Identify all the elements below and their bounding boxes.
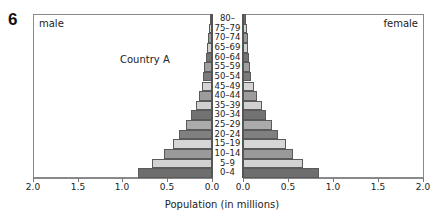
male-bar xyxy=(179,130,212,140)
age-group-label: 30–34 xyxy=(212,110,243,120)
age-group-label: 10–14 xyxy=(212,149,243,159)
age-group-label: 55–59 xyxy=(212,62,243,72)
x-tick-label: 1.5 xyxy=(71,182,85,192)
male-bar xyxy=(152,159,212,169)
age-group-label: 50–54 xyxy=(212,72,243,82)
age-group-labels: 0–45–910–1415–1920–2425–2930–3435–3940–4… xyxy=(212,14,243,178)
male-bar xyxy=(196,101,212,111)
female-bar xyxy=(243,139,286,149)
age-group-label: 0–4 xyxy=(212,168,243,178)
female-bar xyxy=(243,130,278,140)
female-bar xyxy=(243,62,250,72)
female-bar xyxy=(243,91,257,101)
age-group-label: 70–74 xyxy=(212,33,243,43)
age-group-label: 65–69 xyxy=(212,43,243,53)
male-bar xyxy=(138,168,212,178)
x-tick-label: 2.0 xyxy=(416,182,430,192)
female-bar xyxy=(243,82,254,92)
male-bars xyxy=(33,14,212,178)
female-bar xyxy=(243,168,319,178)
x-tick-label: 0.5 xyxy=(281,182,295,192)
x-tick-label: 1.5 xyxy=(371,182,385,192)
female-bar xyxy=(243,120,272,130)
age-group-label: 75–79 xyxy=(212,24,243,34)
female-bar xyxy=(243,72,251,82)
female-bars xyxy=(243,14,423,178)
female-bar xyxy=(243,101,262,111)
age-group-label: 40–44 xyxy=(212,91,243,101)
age-group-label: 35–39 xyxy=(212,101,243,111)
question-number: 6 xyxy=(8,10,17,30)
age-group-label: 20–24 xyxy=(212,130,243,140)
x-tick-label: 1.0 xyxy=(115,182,129,192)
female-bar xyxy=(243,159,303,169)
female-bar xyxy=(243,149,293,159)
age-group-label: 15–19 xyxy=(212,139,243,149)
x-tick-label: 2.0 xyxy=(26,182,40,192)
female-bar xyxy=(243,110,266,120)
x-axis-label: Population (in millions) xyxy=(0,199,444,210)
male-bar xyxy=(173,139,212,149)
age-group-label: 25–29 xyxy=(212,120,243,130)
age-group-label: 80– xyxy=(212,14,243,24)
male-bar xyxy=(164,149,212,159)
x-tick-label: 0.5 xyxy=(160,182,174,192)
x-tick-label: 0.0 xyxy=(236,182,250,192)
male-bar xyxy=(191,110,212,120)
age-group-label: 5–9 xyxy=(212,159,243,169)
x-tick-label: 1.0 xyxy=(326,182,340,192)
age-group-label: 45–49 xyxy=(212,82,243,92)
x-tick-label: 0.0 xyxy=(205,182,219,192)
age-group-label: 60–64 xyxy=(212,53,243,63)
male-bar xyxy=(186,120,212,130)
